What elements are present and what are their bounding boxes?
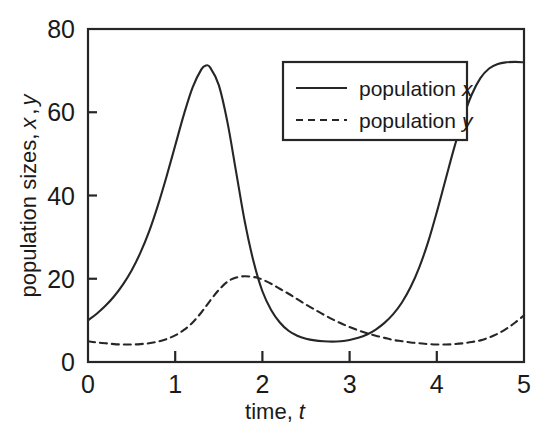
axis-tickmarks xyxy=(88,112,437,362)
y-tick-label-60: 60 xyxy=(47,98,75,126)
x-tick-label-2: 2 xyxy=(255,370,269,398)
line-chart: 0 20 40 60 80 0 1 2 3 4 5 populationx xyxy=(0,0,546,436)
x-tick-label-5: 5 xyxy=(517,370,531,398)
y-tick-label-40: 40 xyxy=(47,182,75,210)
y-tick-label-80: 80 xyxy=(47,15,75,43)
y-axis-tick-labels: 0 20 40 60 80 xyxy=(47,15,75,376)
chart-figure: 0 20 40 60 80 0 1 2 3 4 5 populationx xyxy=(0,0,546,436)
x-tick-label-3: 3 xyxy=(343,370,357,398)
x-axis-title: time,t xyxy=(245,399,306,424)
x-tick-label-0: 0 xyxy=(81,370,95,398)
x-tick-label-1: 1 xyxy=(168,370,182,398)
y-tick-label-0: 0 xyxy=(61,348,75,376)
x-tick-label-4: 4 xyxy=(430,370,444,398)
y-axis-title: population sizes,x,y xyxy=(16,92,41,297)
series-line-population-y xyxy=(88,276,524,344)
y-tick-label-20: 20 xyxy=(47,265,75,293)
x-axis-tick-labels: 0 1 2 3 4 5 xyxy=(81,370,531,398)
chart-legend: populationx populationy xyxy=(283,62,474,140)
